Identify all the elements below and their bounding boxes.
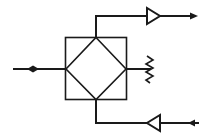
tx-output-arrow-icon <box>190 13 198 20</box>
tx-branch <box>96 8 198 37</box>
tx-amplifier-icon <box>147 8 160 24</box>
hybrid-coupler <box>66 38 127 100</box>
rx-input-arrow-icon <box>188 120 195 127</box>
bidirectional-arrow-icon <box>27 66 39 73</box>
rx-branch <box>96 100 198 131</box>
rx-amplifier-icon <box>147 115 160 131</box>
hybrid-coupler-diagram <box>0 0 209 140</box>
termination <box>126 56 153 83</box>
input-port <box>14 66 66 73</box>
